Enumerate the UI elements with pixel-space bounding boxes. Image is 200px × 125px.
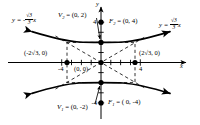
y-axis-label: y xyxy=(96,1,99,8)
vertex-top-subscript: 2 xyxy=(62,15,64,20)
point-origin xyxy=(98,60,103,65)
asymptote-left-denominator: 3 xyxy=(25,20,33,26)
vertex-top-label: V2 = (0, 2) xyxy=(58,12,86,21)
focus-bottom-subscript: 1 xyxy=(112,102,114,107)
asymptote-right-suffix: x xyxy=(178,21,181,28)
focus-bottom-coords: = ( 0, -4) xyxy=(116,98,140,105)
x-axis-label: x xyxy=(180,63,183,70)
point-box-corner-left xyxy=(64,60,69,65)
focus-bottom-label: F1 = ( 0, -4) xyxy=(108,99,140,108)
focus-top-label: F2 = (0, 4) xyxy=(109,18,137,27)
asymptote-right-prefix: y = xyxy=(159,21,170,28)
asymptote-left-suffix: x xyxy=(33,16,36,23)
point-vertex-bottom xyxy=(98,80,103,85)
x-tick-label-4: 4 xyxy=(139,66,142,73)
focus-top-subscript: 2 xyxy=(113,21,115,26)
y-tick-label-4: 4 xyxy=(93,19,96,26)
point-focus-top xyxy=(98,20,103,25)
point-vertex-top xyxy=(98,40,103,45)
box-corner-right-label: (2√3, 0) xyxy=(139,50,160,57)
focus-top-coords: = (0, 4) xyxy=(117,17,137,24)
asymptote-left-prefix: y = - xyxy=(12,16,25,23)
vertex-bottom-subscript: 1 xyxy=(61,107,63,112)
hyperbola-figure: y x 4 -4 -4 4 (0, 0) F2 = (0, 4) F1 = ( … xyxy=(0,0,200,125)
asymptote-right-denominator: 3 xyxy=(170,25,178,31)
asymptote-left-fraction: √33 xyxy=(25,13,33,26)
vertex-top-coords: = (0, 2) xyxy=(66,11,86,18)
x-tick-label-minus-4: -4 xyxy=(58,66,63,73)
origin-label: (0, 0) xyxy=(74,66,88,73)
point-focus-bottom xyxy=(98,100,103,105)
asymptote-right-fraction: √33 xyxy=(170,18,178,31)
asymptote-right-label: y = √33x xyxy=(159,18,181,31)
point-box-corner-right xyxy=(132,60,137,65)
box-corner-left-label: (-2√3, 0) xyxy=(24,50,47,57)
y-tick-label-minus-4: -4 xyxy=(92,100,97,107)
asymptote-left-label: y = -√33x xyxy=(12,13,36,26)
vertex-bottom-coords: = (0, -2) xyxy=(65,103,88,110)
vertex-bottom-label: V1 = (0, -2) xyxy=(57,104,88,113)
